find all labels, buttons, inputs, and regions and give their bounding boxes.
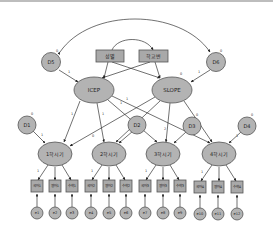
svg-text:2학시기: 2학시기 (100, 151, 118, 158)
svg-text:1: 1 (145, 169, 147, 173)
indicator-7[interactable]: 국어3 (139, 180, 151, 192)
error-e1[interactable]: e1 (31, 207, 43, 219)
disturbance-d2[interactable]: D2 (128, 116, 146, 134)
svg-text:수학1: 수학1 (68, 183, 76, 188)
path-school-icep (102, 62, 150, 78)
indicator-6[interactable]: 수학2 (120, 180, 132, 192)
error-e11[interactable]: e11 (212, 208, 224, 220)
svg-text:2: 2 (164, 127, 166, 131)
svg-text:ICEP: ICEP (88, 87, 101, 93)
svg-text:학교변: 학교변 (146, 53, 161, 60)
disturbance-d1[interactable]: D1 0 (18, 112, 36, 134)
time-factor-2[interactable]: 2학시기 (92, 142, 126, 166)
error-e4[interactable]: e4 (85, 207, 97, 219)
covariance-sex-school (112, 40, 153, 51)
error-e8[interactable]: e8 (157, 207, 169, 219)
indicator-9[interactable]: 수학3 (174, 180, 186, 192)
disturbance-d5[interactable]: D5 0 (42, 49, 61, 72)
disturbance-d4[interactable]: D4 0 (238, 113, 256, 135)
indicator-11[interactable]: 영어4 (212, 181, 224, 193)
error-e2[interactable]: e2 (49, 207, 61, 219)
svg-text:D5: D5 (47, 59, 54, 65)
indicator-3[interactable]: 수학1 (66, 180, 78, 192)
time-factor-1[interactable]: 1학시기 (38, 142, 72, 166)
error-e12[interactable]: e12 (231, 208, 243, 220)
svg-text:국어1: 국어1 (33, 183, 41, 188)
svg-text:0: 0 (56, 49, 58, 53)
svg-text:e11: e11 (215, 212, 222, 216)
svg-text:0: 0 (220, 49, 222, 53)
svg-text:e8: e8 (161, 211, 166, 215)
svg-text:e6: e6 (124, 211, 129, 215)
svg-text:0: 0 (251, 113, 253, 117)
path-icep-t2 (97, 103, 104, 142)
path-sex-icep (104, 62, 108, 78)
svg-text:SLOPE: SLOPE (163, 87, 181, 93)
svg-text:e10: e10 (197, 212, 204, 216)
path-d4-t4 (229, 132, 241, 143)
svg-text:D3: D3 (188, 123, 195, 129)
svg-text:e12: e12 (234, 212, 241, 216)
time-factor-3[interactable]: 3학시기 (146, 142, 180, 166)
svg-text:1: 1 (201, 170, 203, 174)
svg-text:국어3: 국어3 (141, 183, 149, 188)
svg-text:1: 1 (41, 133, 43, 137)
path-icep-t1 (64, 101, 80, 142)
time-factor-4[interactable]: 4학시기 (202, 142, 236, 166)
svg-text:0: 0 (92, 134, 94, 138)
svg-text:D6: D6 (212, 59, 219, 65)
svg-text:1: 1 (37, 169, 39, 173)
indicator-2[interactable]: 영어1 (49, 180, 61, 192)
indicator-12[interactable]: 수학4 (231, 181, 243, 193)
path-d3-t3 (174, 132, 186, 143)
svg-text:e2: e2 (53, 211, 58, 215)
svg-text:국어4: 국어4 (196, 184, 205, 189)
path-school-slope (155, 62, 160, 78)
indicator-5[interactable]: 영어2 (103, 180, 115, 192)
disturbance-d6[interactable]: D6 0 (207, 49, 226, 72)
error-e5[interactable]: e5 (103, 207, 115, 219)
svg-text:1: 1 (120, 101, 122, 105)
error-e3[interactable]: e3 (66, 207, 78, 219)
indicator-10[interactable]: 국어4 (194, 181, 206, 193)
svg-text:D1: D1 (23, 122, 30, 128)
svg-text:1: 1 (198, 70, 200, 74)
svg-text:성별: 성별 (105, 53, 115, 60)
svg-text:0: 0 (180, 72, 182, 76)
svg-text:1: 1 (68, 70, 70, 74)
svg-text:e1: e1 (35, 211, 40, 215)
growth-factor-icep[interactable]: ICEP (74, 77, 114, 103)
error-e6[interactable]: e6 (120, 207, 132, 219)
indicator-8[interactable]: 영어3 (157, 180, 169, 192)
disturbance-d3[interactable]: D3 0 (183, 113, 201, 135)
svg-text:영어4: 영어4 (214, 184, 223, 189)
error-e10[interactable]: e10 (194, 208, 206, 220)
svg-text:1: 1 (126, 97, 128, 101)
svg-text:국어2: 국어2 (87, 183, 95, 188)
svg-text:0: 0 (196, 113, 198, 117)
svg-text:영어1: 영어1 (51, 183, 59, 188)
svg-text:e3: e3 (70, 211, 75, 215)
svg-text:e4: e4 (89, 211, 94, 215)
svg-text:e7: e7 (143, 211, 148, 215)
path-sex-slope (112, 62, 160, 78)
indicator-1[interactable]: 국어1 (31, 180, 43, 192)
svg-text:D4: D4 (243, 123, 250, 129)
error-e7[interactable]: e7 (139, 207, 151, 219)
error-e9[interactable]: e9 (174, 207, 186, 219)
svg-text:1학시기: 1학시기 (46, 151, 64, 158)
svg-text:3학시기: 3학시기 (154, 151, 172, 158)
covariance-d5-d6 (60, 19, 210, 52)
growth-factor-slope[interactable]: SLOPE 0 (152, 72, 192, 103)
svg-text:1: 1 (71, 112, 73, 116)
covariate-sex[interactable]: 성별 (96, 50, 124, 62)
svg-text:수학3: 수학3 (176, 183, 184, 188)
svg-text:1: 1 (91, 169, 93, 173)
svg-text:영어2: 영어2 (105, 183, 113, 188)
svg-text:e5: e5 (107, 211, 112, 215)
svg-text:영어3: 영어3 (159, 183, 167, 188)
indicator-4[interactable]: 국어2 (85, 180, 97, 192)
svg-text:0: 0 (31, 112, 33, 116)
svg-text:4학시기: 4학시기 (210, 151, 228, 158)
covariate-school[interactable]: 학교변 (139, 50, 168, 62)
